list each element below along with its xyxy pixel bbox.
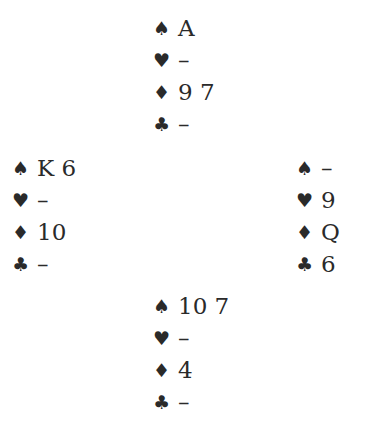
east-spades-row: ♠ – (296, 152, 366, 184)
east-clubs-row: ♣ 6 (296, 248, 366, 280)
south-diamonds-row: ♦ 4 (153, 354, 263, 386)
north-diamonds-row: ♦ 9 7 (153, 76, 263, 108)
east-hand: ♠ – ♥ 9 ♦ Q ♣ 6 (296, 152, 366, 280)
west-spades-row: ♠ K 6 (12, 152, 122, 184)
east-hearts-row: ♥ 9 (296, 184, 366, 216)
east-diamonds-cards: Q (321, 216, 340, 248)
south-hand: ♠ 10 7 ♥ – ♦ 4 ♣ – (153, 290, 263, 418)
south-clubs-cards: – (178, 386, 190, 418)
south-hearts-row: ♥ – (153, 322, 263, 354)
west-diamonds-cards: 10 (37, 216, 66, 248)
west-spades-cards: K 6 (37, 152, 76, 184)
west-clubs-row: ♣ – (12, 248, 122, 280)
east-spades-cards: – (321, 152, 333, 184)
west-diamonds-row: ♦ 10 (12, 216, 122, 248)
west-hand: ♠ K 6 ♥ – ♦ 10 ♣ – (12, 152, 122, 280)
south-spades-cards: 10 7 (178, 290, 229, 322)
diamond-icon: ♦ (153, 354, 175, 386)
west-hearts-cards: – (37, 184, 49, 216)
spade-icon: ♠ (153, 12, 175, 44)
spade-icon: ♠ (12, 152, 34, 184)
east-clubs-cards: 6 (321, 248, 336, 280)
heart-icon: ♥ (296, 184, 318, 216)
heart-icon: ♥ (12, 184, 34, 216)
diamond-icon: ♦ (12, 216, 34, 248)
heart-icon: ♥ (153, 322, 175, 354)
north-hearts-row: ♥ – (153, 44, 263, 76)
north-clubs-cards: – (178, 108, 190, 140)
east-diamonds-row: ♦ Q (296, 216, 366, 248)
north-hand: ♠ A ♥ – ♦ 9 7 ♣ – (153, 12, 263, 140)
club-icon: ♣ (153, 386, 175, 418)
north-clubs-row: ♣ – (153, 108, 263, 140)
spade-icon: ♠ (296, 152, 318, 184)
club-icon: ♣ (12, 248, 34, 280)
heart-icon: ♥ (153, 44, 175, 76)
north-spades-row: ♠ A (153, 12, 263, 44)
north-spades-cards: A (178, 12, 195, 44)
south-spades-row: ♠ 10 7 (153, 290, 263, 322)
south-hearts-cards: – (178, 322, 190, 354)
south-diamonds-cards: 4 (178, 354, 193, 386)
east-hearts-cards: 9 (321, 184, 336, 216)
north-diamonds-cards: 9 7 (178, 76, 215, 108)
club-icon: ♣ (296, 248, 318, 280)
diamond-icon: ♦ (296, 216, 318, 248)
west-hearts-row: ♥ – (12, 184, 122, 216)
spade-icon: ♠ (153, 290, 175, 322)
club-icon: ♣ (153, 108, 175, 140)
south-clubs-row: ♣ – (153, 386, 263, 418)
diamond-icon: ♦ (153, 76, 175, 108)
west-clubs-cards: – (37, 248, 49, 280)
north-hearts-cards: – (178, 44, 190, 76)
